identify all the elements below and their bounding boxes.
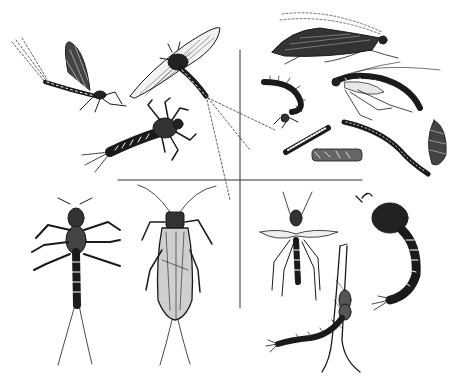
caddisfly-adult-resting <box>272 13 398 64</box>
mayfly-spinner <box>12 38 126 112</box>
caddis-cases <box>286 120 446 174</box>
midge-adult <box>260 192 338 300</box>
midge-larva-on-stem <box>266 244 360 372</box>
caddisfly-adult <box>332 62 440 120</box>
mayfly-dun <box>130 28 275 200</box>
caddis-larva <box>264 76 305 128</box>
aquatic-insects-illustration <box>0 0 459 380</box>
quadrant-dividers <box>118 50 362 308</box>
mayfly-nymph <box>82 98 196 172</box>
stonefly-adult <box>138 185 216 365</box>
midge-pupa <box>356 193 418 310</box>
stonefly-nymph <box>32 198 120 365</box>
